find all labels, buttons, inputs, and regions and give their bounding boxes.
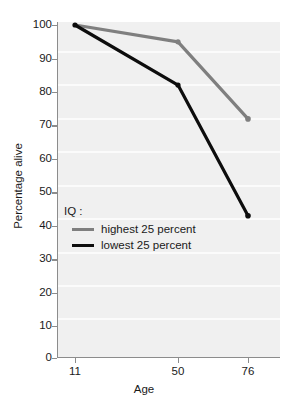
y-tick-label-80: 80 <box>39 86 52 98</box>
x-tick-label-50: 50 <box>158 366 198 378</box>
y-tick-100 <box>52 25 57 26</box>
gridline-10 <box>58 318 280 320</box>
y-tick-60 <box>52 159 57 160</box>
plot-area <box>57 22 280 358</box>
gridline-70 <box>58 118 280 120</box>
x-tick-50 <box>178 358 179 363</box>
y-tick-90 <box>52 59 57 60</box>
x-axis-title: Age <box>0 383 288 395</box>
y-tick-20 <box>52 293 57 294</box>
y-tick-label-10: 10 <box>39 320 52 332</box>
gridline-80 <box>58 84 280 86</box>
y-tick-70 <box>52 125 57 126</box>
legend-label-lowest: lowest 25 percent <box>101 240 191 252</box>
legend-label-highest: highest 25 percent <box>101 224 196 236</box>
y-tick-50 <box>52 192 57 193</box>
gridline-50 <box>58 185 280 187</box>
y-tick-label-30: 30 <box>39 253 52 265</box>
legend-item-lowest-25-percent: lowest 25 percent <box>72 240 196 252</box>
x-tick-label-11: 11 <box>55 366 95 378</box>
y-axis-title: Percentage alive <box>12 116 24 256</box>
gridline-90 <box>58 51 280 53</box>
y-tick-30 <box>52 259 57 260</box>
legend-title: IQ : <box>64 206 196 218</box>
legend-swatch-lowest-icon <box>72 244 94 247</box>
y-tick-40 <box>52 226 57 227</box>
gridline-60 <box>58 151 280 153</box>
y-tick-label-50: 50 <box>39 186 52 198</box>
y-tick-label-20: 20 <box>39 287 52 299</box>
legend-item-highest-25-percent: highest 25 percent <box>72 224 196 236</box>
y-tick-label-90: 90 <box>39 53 52 65</box>
x-tick-76 <box>248 358 249 363</box>
y-tick-label-100: 100 <box>33 19 52 31</box>
x-tick-11 <box>75 358 76 363</box>
y-tick-0 <box>52 358 57 359</box>
y-tick-10 <box>52 326 57 327</box>
y-tick-label-60: 60 <box>39 153 52 165</box>
legend: IQ : highest 25 percent lowest 25 percen… <box>64 206 196 257</box>
x-tick-label-76: 76 <box>228 366 268 378</box>
y-tick-80 <box>52 92 57 93</box>
chart-figure: 100 90 80 70 60 50 40 30 20 10 0 11 50 7… <box>0 0 288 400</box>
gridline-20 <box>58 285 280 287</box>
legend-swatch-highest-icon <box>72 228 94 231</box>
y-tick-label-0: 0 <box>46 352 52 364</box>
y-tick-label-70: 70 <box>39 119 52 131</box>
y-tick-label-40: 40 <box>39 220 52 232</box>
